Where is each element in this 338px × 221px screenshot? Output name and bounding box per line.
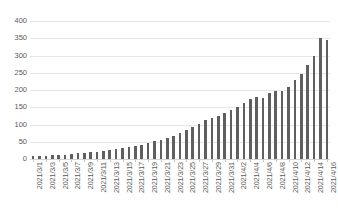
x-tick-label: 2021/4/4 <box>253 162 261 189</box>
bar <box>249 99 252 159</box>
bar <box>281 91 284 159</box>
y-tick-label: 200 <box>0 86 27 94</box>
x-tick-label: 2021/3/3 <box>49 162 57 189</box>
x-tick-label: 2021/4/10 <box>292 162 300 193</box>
x-tick-label: 2021/3/23 <box>177 162 185 193</box>
bar <box>198 124 201 159</box>
x-tick-label: 2021/3/21 <box>164 162 172 193</box>
bar <box>223 113 226 159</box>
bar <box>160 140 163 159</box>
bar <box>179 133 182 159</box>
x-tick-label: 2021/4/6 <box>266 162 274 189</box>
bar <box>172 136 175 159</box>
bar <box>191 127 194 159</box>
y-axis: 050100150200250300350400 <box>0 21 27 159</box>
bar <box>294 80 297 159</box>
y-tick-label: 350 <box>0 34 27 42</box>
x-tick-label: 2021/3/31 <box>228 162 236 193</box>
x-tick-label: 2021/3/25 <box>189 162 197 193</box>
bar <box>243 103 246 159</box>
y-tick-label: 150 <box>0 103 27 111</box>
x-tick-label: 2021/4/14 <box>317 162 325 193</box>
bar <box>134 146 137 159</box>
bar <box>204 120 207 159</box>
bar <box>319 38 322 159</box>
y-tick-label: 100 <box>0 121 27 129</box>
bar <box>217 116 220 159</box>
y-tick-label: 50 <box>0 138 27 146</box>
x-tick-label: 2021/3/27 <box>202 162 210 193</box>
x-tick-label: 2021/4/12 <box>304 162 312 193</box>
x-tick-label: 2021/3/15 <box>126 162 134 193</box>
bar <box>262 98 265 159</box>
x-tick-label: 2021/4/2 <box>240 162 248 189</box>
bar <box>96 152 99 159</box>
y-tick-label: 250 <box>0 69 27 77</box>
bar <box>255 97 258 159</box>
bar <box>121 148 124 159</box>
y-tick-label: 300 <box>0 52 27 60</box>
x-axis: 2021/3/12021/3/32021/3/52021/3/72021/3/9… <box>30 162 330 220</box>
x-tick-label: 2021/4/16 <box>330 162 338 193</box>
bar <box>140 145 143 159</box>
bar <box>147 143 150 159</box>
bar <box>128 147 131 159</box>
bar <box>230 110 233 159</box>
x-tick-label: 2021/3/29 <box>215 162 223 193</box>
bar <box>268 93 271 159</box>
bars-layer <box>30 21 330 159</box>
bar <box>166 138 169 159</box>
y-tick-label: 0 <box>0 155 27 163</box>
x-tick-label: 2021/3/9 <box>87 162 95 189</box>
plot-area <box>30 21 330 159</box>
bar <box>326 40 329 159</box>
bar <box>274 91 277 159</box>
bar <box>102 151 105 159</box>
bar <box>185 130 188 159</box>
bar <box>306 65 309 159</box>
x-tick-label: 2021/4/8 <box>279 162 287 189</box>
x-tick-label: 2021/3/19 <box>151 162 159 193</box>
bar <box>236 107 239 159</box>
x-tick-label: 2021/3/7 <box>74 162 82 189</box>
bar <box>115 149 118 159</box>
bar <box>300 74 303 159</box>
x-tick-label: 2021/3/17 <box>138 162 146 193</box>
bar <box>313 56 316 160</box>
bar <box>153 141 156 159</box>
x-tick-label: 2021/3/11 <box>100 162 108 193</box>
bar <box>211 118 214 159</box>
x-tick-label: 2021/3/1 <box>36 162 44 189</box>
bar <box>108 150 111 159</box>
bar <box>287 87 290 159</box>
x-tick-label: 2021/3/13 <box>113 162 121 193</box>
x-tick-label: 2021/3/5 <box>62 162 70 189</box>
y-tick-label: 400 <box>0 17 27 25</box>
